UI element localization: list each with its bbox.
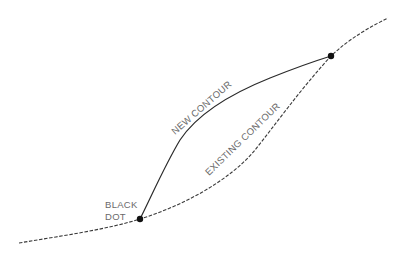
- contour-diagram: NEW CONTOUR EXISTING CONTOUR BLACK DOT: [0, 0, 402, 258]
- black-dot-lower: [137, 216, 143, 222]
- existing-contour-label: EXISTING CONTOUR: [203, 100, 282, 177]
- black-dot-upper: [328, 53, 334, 59]
- black-dot-label-line2: DOT: [105, 211, 126, 222]
- new-contour-label: NEW CONTOUR: [169, 78, 234, 136]
- existing-contour-line: [19, 18, 388, 243]
- black-dot-label-line1: BLACK: [105, 199, 138, 210]
